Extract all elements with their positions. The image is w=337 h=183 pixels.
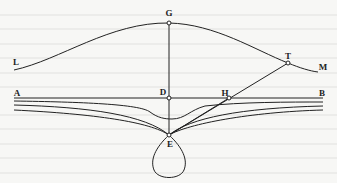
label-m: M: [319, 63, 328, 72]
label-t: T: [285, 52, 291, 61]
label-a: A: [14, 89, 21, 98]
label-e: E: [167, 140, 173, 149]
label-d: D: [160, 88, 167, 97]
label-g: G: [165, 9, 172, 18]
point-g: [167, 21, 171, 25]
label-h: H: [221, 89, 228, 98]
label-b: B: [319, 89, 325, 98]
point-t: [286, 61, 290, 65]
wave-curve-lm: [14, 23, 318, 72]
line-eh: [169, 98, 229, 135]
geometric-diagram: [0, 0, 337, 183]
label-l: L: [13, 58, 19, 67]
point-d: [167, 96, 171, 100]
point-e: [167, 133, 171, 137]
